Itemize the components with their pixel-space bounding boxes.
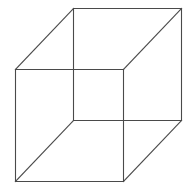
background (0, 0, 192, 193)
necker-cube-diagram (0, 0, 192, 193)
